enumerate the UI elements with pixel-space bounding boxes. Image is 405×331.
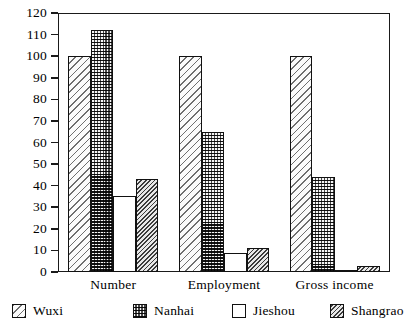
y-axis-tick-mark: [51, 250, 58, 252]
legend-label-shangrao: Shangrao: [351, 303, 404, 319]
bars-layer: [58, 13, 390, 272]
y-axis-tick-label: 100: [26, 47, 47, 65]
bar-nanhai-number: [91, 30, 114, 272]
bar-shangrao-gross-income: [357, 266, 380, 272]
bar-shangrao-number: [136, 179, 159, 272]
y-axis-tick-label: 0: [40, 263, 47, 281]
legend-swatch-jieshou: [232, 304, 246, 318]
y-axis-tick-mark: [51, 34, 58, 36]
y-axis-tick-label: 40: [33, 177, 47, 195]
x-axis-label-number: Number: [90, 275, 136, 295]
y-axis-tick-label: 60: [33, 134, 47, 152]
y-axis-tick-label: 80: [33, 90, 47, 108]
x-axis-label-gross-income: Gross income: [296, 275, 374, 295]
legend-item-nanhai[interactable]: Nanhai: [133, 303, 194, 319]
legend-swatch-wuxi: [12, 304, 26, 318]
bar-nanhai-gross-income: [312, 177, 335, 272]
bar-wuxi-number: [68, 56, 91, 272]
y-axis-tick-mark: [51, 12, 58, 14]
legend-label-nanhai: Nanhai: [154, 303, 194, 319]
bar-jieshou-employment: [224, 253, 247, 272]
chart-legend: WuxiNanhaiJieshouShangrao: [0, 303, 405, 327]
y-axis-tick-mark: [51, 228, 58, 230]
y-axis: 0102030405060708090100110120: [0, 13, 58, 272]
y-axis-tick-mark: [51, 77, 58, 79]
y-axis-tick-mark: [51, 55, 58, 57]
y-axis-tick-label: 30: [33, 198, 47, 216]
y-axis-tick-label: 110: [27, 26, 47, 44]
bar-shangrao-employment: [247, 248, 270, 272]
y-axis-tick-label: 10: [33, 241, 47, 259]
legend-item-jieshou[interactable]: Jieshou: [232, 303, 295, 319]
y-axis-tick-mark: [51, 185, 58, 187]
bar-wuxi-employment: [179, 56, 202, 272]
y-axis-tick-mark: [51, 163, 58, 165]
bar-jieshou-number: [113, 196, 136, 272]
bar-wuxi-gross-income: [290, 56, 313, 272]
legend-item-wuxi[interactable]: Wuxi: [12, 303, 63, 319]
x-axis-label-employment: Employment: [188, 275, 261, 295]
y-axis-tick-label: 120: [26, 4, 47, 22]
legend-swatch-nanhai: [133, 304, 147, 318]
y-axis-tick-label: 50: [33, 155, 47, 173]
legend-label-jieshou: Jieshou: [253, 303, 295, 319]
y-axis-tick-mark: [51, 271, 58, 273]
bar-nanhai-employment: [202, 132, 225, 272]
y-axis-tick-label: 20: [33, 220, 47, 238]
bar-chart: 0102030405060708090100110120 NumberEmplo…: [0, 0, 405, 331]
legend-label-wuxi: Wuxi: [33, 303, 63, 319]
y-axis-tick-label: 70: [33, 112, 47, 130]
x-axis-labels: NumberEmploymentGross income: [58, 275, 390, 297]
y-axis-tick-mark: [51, 120, 58, 122]
legend-item-shangrao[interactable]: Shangrao: [330, 303, 404, 319]
bar-jieshou-gross-income: [335, 270, 358, 272]
y-axis-tick-label: 90: [33, 69, 47, 87]
y-axis-tick-mark: [51, 99, 58, 101]
legend-swatch-shangrao: [330, 304, 344, 318]
y-axis-tick-mark: [51, 206, 58, 208]
y-axis-tick-mark: [51, 142, 58, 144]
